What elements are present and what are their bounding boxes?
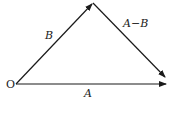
vector-diagram: O B A−B A — [0, 0, 172, 113]
vector-b-arrow — [16, 4, 92, 84]
vector-a-minus-b-arrow — [93, 3, 165, 77]
vector-a-minus-b-label: A−B — [123, 18, 148, 29]
vector-b-label: B — [45, 30, 53, 41]
origin-label: O — [6, 79, 15, 90]
vector-a-label: A — [84, 88, 92, 99]
